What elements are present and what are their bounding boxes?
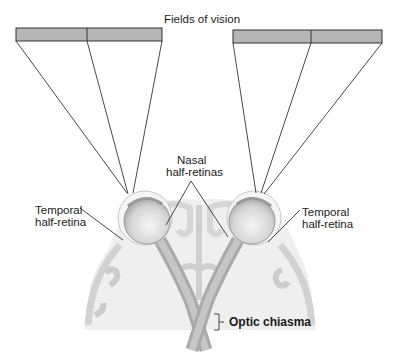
temporal-half-retina-right-label: Temporal half-retina (302, 206, 353, 230)
temporal-half-retina-left-label: Temporal half-retina (35, 204, 86, 228)
right-visual-field (233, 30, 382, 43)
visual-pathway-diagram (0, 0, 398, 364)
fields-of-vision-title: Fields of vision (164, 13, 240, 25)
nasal-half-retinas-label: Nasal half-retinas (166, 154, 223, 178)
optic-chiasma-label: Optic chiasma (229, 316, 311, 328)
left-visual-field (16, 28, 162, 41)
left-eye (118, 191, 172, 245)
